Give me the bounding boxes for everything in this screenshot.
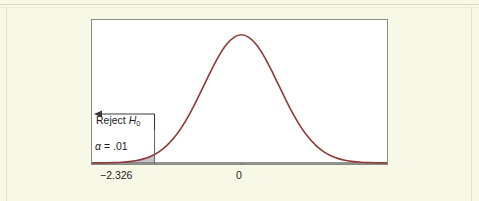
left-rule-line	[6, 7, 7, 201]
plot-frame	[91, 19, 388, 165]
normal-curve	[92, 35, 387, 163]
top-rule-line	[0, 4, 479, 5]
x-tick-label-zero: 0	[236, 170, 242, 181]
normal-distribution-plot	[92, 20, 387, 164]
right-rule-line	[471, 7, 472, 201]
reject-h0-label: Reject H0	[96, 115, 140, 127]
alpha-level-label: α = .01	[95, 141, 128, 152]
reject-h0-prefix: Reject	[96, 114, 129, 126]
figure-container: Reject H0 α = .01 −2.326 0	[0, 0, 479, 201]
alpha-equals: =	[101, 140, 113, 152]
alpha-value: .01	[113, 140, 128, 152]
top-rule-line-secondary	[0, 7, 479, 8]
reject-h0-subscript: 0	[136, 119, 140, 128]
x-tick-label-critical: −2.326	[100, 170, 132, 181]
